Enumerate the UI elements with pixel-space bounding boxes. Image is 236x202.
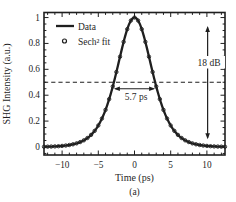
arrowhead-icon xyxy=(205,26,210,32)
legend: Data Sech² fit xyxy=(56,22,110,47)
y-axis-label: SHG Intensity (a.u.) xyxy=(1,43,13,124)
y-tick-label: 0.2 xyxy=(28,116,40,126)
figure-caption: (a) xyxy=(129,187,140,198)
x-tick-label: 10 xyxy=(202,160,212,170)
x-tick-label: −5 xyxy=(93,160,103,170)
y-tick-label: 1 xyxy=(35,13,40,23)
extinction-ratio-label: 18 dB xyxy=(198,58,221,68)
x-axis-label: Time (ps) xyxy=(115,172,154,184)
y-tick-label: 0.8 xyxy=(28,38,40,48)
legend-label-sech2-fit: Sech² fit xyxy=(78,37,110,47)
y-tick-label: 0.6 xyxy=(28,64,40,74)
legend-circle-marker xyxy=(63,39,67,43)
autocorrelation-figure: 18 dB 5.7 ps Data Sech² fit −10 −5 0 5 1… xyxy=(0,0,236,202)
plot-frame xyxy=(44,13,225,156)
x-tick-label: 0 xyxy=(132,160,137,170)
fwhm-label: 5.7 ps xyxy=(125,92,148,102)
y-axis-tick-labels: 1 0.8 0.6 0.4 0.2 0 xyxy=(28,13,40,153)
x-axis-tick-labels: −10 −5 0 5 10 xyxy=(55,160,212,170)
arrowhead-icon xyxy=(205,133,210,139)
y-tick-label: 0 xyxy=(35,142,40,152)
x-tick-label: −10 xyxy=(55,160,70,170)
y-tick-label: 0.4 xyxy=(28,90,40,100)
x-tick-label: 5 xyxy=(168,160,173,170)
legend-label-data: Data xyxy=(78,22,97,32)
chart-canvas: 18 dB 5.7 ps Data Sech² fit −10 −5 0 5 1… xyxy=(0,0,236,202)
plot-dynamic-layer xyxy=(42,13,226,156)
